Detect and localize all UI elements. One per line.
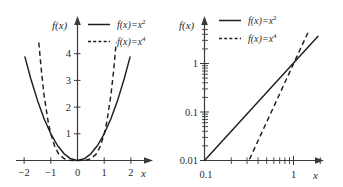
linear-legend: f(x)=x2 f(x)=x4 xyxy=(88,18,146,48)
ytick-label-1: 1 xyxy=(66,128,71,139)
linear-ylabel: f(x) xyxy=(52,19,68,32)
loglog-plot-panel: 0.01 0.1 1 0.1 1 xyxy=(171,0,343,187)
linear-plot-svg: 1 2 3 4 −2 −1 0 1 2 f(x) x xyxy=(0,0,172,187)
log-ytick-label-001: 0.01 xyxy=(180,155,198,166)
ytick-label-2: 2 xyxy=(66,102,71,113)
xtick-label-neg2: −2 xyxy=(19,167,30,178)
dual-plot-figure: 1 2 3 4 −2 −1 0 1 2 f(x) x xyxy=(0,0,343,187)
log-ytick-label-1: 1 xyxy=(193,58,198,69)
loglog-plot-svg: 0.01 0.1 1 0.1 1 xyxy=(171,0,343,187)
log-curve-x2 xyxy=(205,36,319,160)
linear-xlabel: x xyxy=(140,167,146,179)
xtick-label-neg1: −1 xyxy=(45,167,56,178)
log-x-tick-labels: 0.1 1 xyxy=(199,169,296,180)
linear-y-tick-labels: 1 2 3 4 xyxy=(66,48,72,139)
log-xlabel: x xyxy=(312,169,318,181)
xtick-label-0: 0 xyxy=(75,167,80,178)
xtick-label-2: 2 xyxy=(128,167,133,178)
log-y-tick-labels: 0.01 0.1 1 xyxy=(180,58,198,166)
log-xtick-label-01: 0.1 xyxy=(199,169,212,180)
log-ytick-label-01: 0.1 xyxy=(185,107,198,118)
ytick-label-3: 3 xyxy=(66,75,71,86)
ytick-label-4: 4 xyxy=(66,48,72,59)
legend-label-x4: f(x)=x4 xyxy=(117,35,146,48)
log-xtick-label-1: 1 xyxy=(291,169,296,180)
log-legend-label-x4: f(x)=x4 xyxy=(248,32,277,45)
log-curve-x4 xyxy=(250,33,308,160)
xtick-label-1: 1 xyxy=(102,167,107,178)
log-x-axis xyxy=(205,157,325,164)
linear-y-axis xyxy=(74,16,81,161)
linear-plot-panel: 1 2 3 4 −2 −1 0 1 2 f(x) x xyxy=(0,0,172,187)
log-ylabel: f(x) xyxy=(179,19,195,32)
linear-x-tick-labels: −2 −1 0 1 2 xyxy=(19,167,134,178)
log-legend-label-x2: f(x)=x2 xyxy=(248,14,277,27)
legend-label-x2: f(x)=x2 xyxy=(117,18,146,31)
log-legend: f(x)=x2 f(x)=x4 xyxy=(219,14,277,45)
